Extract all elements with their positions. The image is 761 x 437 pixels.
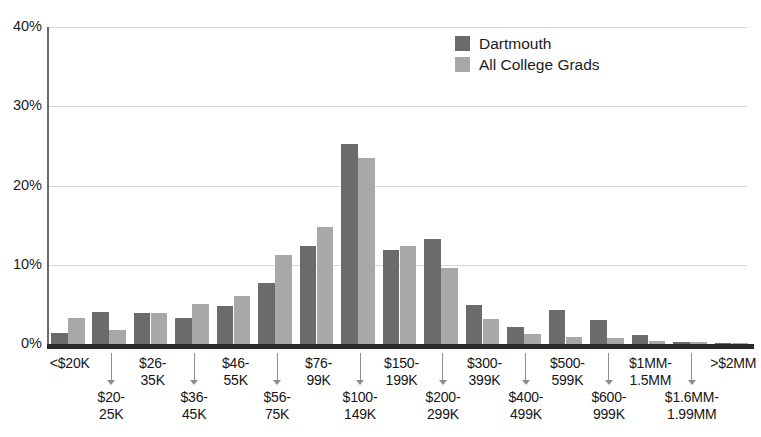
bar-all-college-grads-6 [317,227,334,344]
x-category-label-14: $1MM-1.5MM [605,355,695,388]
legend-label-all-college-grads: All College Grads [479,57,600,73]
x-category-label-line1-4: $46- [191,355,281,372]
legend-item-dartmouth: Dartmouth [455,36,600,52]
x-category-label-line2-11: 499K [481,406,571,423]
y-tick-label-20pct: 20% [0,177,42,193]
legend-item-all-college-grads: All College Grads [455,57,600,73]
bar-dartmouth-4 [217,306,234,344]
chart-container: 0%10%20%30%40% Dartmouth All College Gra… [0,0,761,437]
chart-legend: Dartmouth All College Grads [455,36,600,72]
x-category-label-9: $200-299K [398,389,488,422]
x-category-label-line1-8: $150- [357,355,447,372]
x-category-label-line2-7: 149K [315,406,405,423]
x-category-label-13: $600-999K [564,389,654,422]
x-category-label-line2-5: 75K [232,406,322,423]
x-category-label-5: $56-75K [232,389,322,422]
x-category-label-12: $500-599K [522,355,612,388]
y-tick-label-0pct: 0% [0,335,42,351]
bar-all-college-grads-11 [524,334,541,344]
bar-all-college-grads-9 [441,268,458,344]
x-category-label-line1-6: $76- [274,355,364,372]
y-tick-label-40pct: 40% [0,18,42,34]
bar-all-college-grads-3 [192,304,209,344]
x-category-label-line1-0: <$20K [25,355,115,372]
x-category-label-line1-5: $56- [232,389,322,406]
bar-dartmouth-3 [175,318,192,344]
x-category-label-line2-2: 35K [108,372,198,389]
x-category-label-line2-1: 25K [66,406,156,423]
x-category-label-15: $1.6MM-1.99MM [647,389,737,422]
x-category-label-line2-9: 299K [398,406,488,423]
x-category-label-line1-14: $1MM- [605,355,695,372]
bar-dartmouth-0 [51,333,68,344]
x-category-label-3: $36-45K [149,389,239,422]
x-category-label-7: $100-149K [315,389,405,422]
bar-all-college-grads-10 [483,319,500,344]
bars-layer [49,27,754,344]
legend-swatch-icon-all-college-grads [455,57,470,72]
bar-all-college-grads-12 [566,337,583,344]
bar-all-college-grads-0 [68,318,85,344]
x-category-label-line1-2: $26- [108,355,198,372]
x-category-label-line2-10: 399K [439,372,529,389]
bar-dartmouth-11 [507,327,524,344]
y-tick-label-10pct: 10% [0,256,42,272]
bar-all-college-grads-4 [234,296,251,344]
x-category-label-0: <$20K [25,355,115,372]
x-category-label-line2-4: 55K [191,372,281,389]
bar-all-college-grads-8 [400,246,417,344]
bar-dartmouth-7 [341,144,358,344]
bar-all-college-grads-2 [151,313,168,344]
legend-label-dartmouth: Dartmouth [479,36,551,52]
legend-swatch-icon-dartmouth [455,36,470,51]
bar-dartmouth-12 [549,310,566,344]
bar-dartmouth-5 [258,283,275,344]
bar-dartmouth-9 [424,239,441,344]
x-category-label-line2-8: 199K [357,372,447,389]
x-category-label-6: $76-99K [274,355,364,388]
x-category-label-line1-1: $20- [66,389,156,406]
x-category-label-16: >$2MM [688,355,761,372]
bar-dartmouth-13 [590,320,607,344]
x-category-label-line1-9: $200- [398,389,488,406]
x-category-label-4: $46-55K [191,355,281,388]
x-category-label-1: $20-25K [66,389,156,422]
bar-dartmouth-6 [300,246,317,344]
x-category-label-line1-11: $400- [481,389,571,406]
x-category-label-2: $26-35K [108,355,198,388]
x-category-label-line2-3: 45K [149,406,239,423]
x-category-label-line1-12: $500- [522,355,612,372]
x-category-label-line2-6: 99K [274,372,364,389]
x-category-label-line1-16: >$2MM [688,355,761,372]
bar-dartmouth-10 [466,305,483,344]
bar-all-college-grads-1 [109,330,126,344]
bar-dartmouth-14 [632,335,649,345]
bar-all-college-grads-5 [275,255,292,344]
x-category-label-line1-7: $100- [315,389,405,406]
x-category-label-line1-3: $36- [149,389,239,406]
x-category-label-11: $400-499K [481,389,571,422]
x-category-label-10: $300-399K [439,355,529,388]
x-axis-category-labels: <$20K$20-25K$26-35K$36-45K$46-55K$56-75K… [47,349,754,437]
bar-dartmouth-8 [383,250,400,344]
x-category-label-line1-13: $600- [564,389,654,406]
x-category-label-line2-12: 599K [522,372,612,389]
x-category-label-line2-14: 1.5MM [605,372,695,389]
x-category-label-line2-13: 999K [564,406,654,423]
bar-dartmouth-1 [92,312,109,344]
bar-all-college-grads-7 [358,158,375,344]
x-category-label-line2-15: 1.99MM [647,406,737,423]
y-tick-label-30pct: 30% [0,97,42,113]
x-category-label-line1-15: $1.6MM- [647,389,737,406]
x-category-label-line1-10: $300- [439,355,529,372]
x-category-label-8: $150-199K [357,355,447,388]
bar-dartmouth-2 [134,313,151,344]
arrow-head [688,380,696,385]
